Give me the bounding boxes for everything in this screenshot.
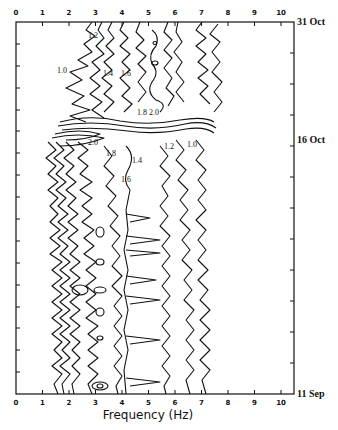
x-tick-label: 10 bbox=[276, 9, 286, 17]
x-tick-label: 5 bbox=[146, 399, 151, 407]
contour-chart: 0 1 2 3 4 5 6 7 8 9 10 0 1 2 3 4 5 6 7 8… bbox=[0, 0, 338, 430]
x-tick-label: 4 bbox=[120, 9, 125, 17]
x-tick-label: 9 bbox=[252, 399, 257, 407]
date-label-top: 31 Oct bbox=[297, 16, 326, 27]
contour-label: 2.0 bbox=[88, 138, 98, 147]
contour-lines bbox=[46, 22, 222, 394]
x-tick-label: 1 bbox=[40, 9, 45, 17]
x-tick-label: 7 bbox=[199, 399, 204, 407]
x-tick-label: 4 bbox=[120, 399, 125, 407]
x-tick-label: 0 bbox=[14, 399, 19, 407]
contour-label: 1.0 bbox=[187, 140, 197, 149]
contour-label: 1.4 bbox=[103, 69, 113, 78]
x-axis-top: 0 1 2 3 4 5 6 7 8 9 10 bbox=[14, 9, 286, 17]
x-tick-label: 6 bbox=[173, 399, 178, 407]
contour-label: 2.0 bbox=[149, 108, 159, 117]
x-axis-bottom: 0 1 2 3 4 5 6 7 8 9 10 bbox=[14, 399, 286, 407]
contour-label: 1.2 bbox=[164, 142, 174, 151]
x-tick-label: 10 bbox=[276, 399, 286, 407]
x-tick-label: 6 bbox=[173, 9, 178, 17]
contour-label: 1.8 bbox=[137, 108, 147, 117]
x-tick-label: 0 bbox=[14, 9, 19, 17]
contour-label: 1.6 bbox=[121, 175, 131, 184]
x-tick-label: 2 bbox=[67, 9, 72, 17]
contour-label: 1.8 bbox=[106, 149, 116, 158]
x-tick-label: 7 bbox=[199, 9, 204, 17]
contour-label: 1.6 bbox=[121, 69, 131, 78]
x-tick-label: 1 bbox=[40, 399, 45, 407]
contour-label: 1.2 bbox=[88, 31, 98, 40]
x-tick-label: 8 bbox=[226, 399, 231, 407]
contour-label: 1.0 bbox=[57, 66, 67, 75]
x-axis-label: Frequency (Hz) bbox=[103, 408, 194, 422]
date-label-mid: 16 Oct bbox=[297, 134, 326, 145]
contour-label: 1.4 bbox=[132, 156, 142, 165]
x-tick-label: 5 bbox=[146, 9, 151, 17]
x-tick-label: 9 bbox=[252, 9, 257, 17]
x-tick-label: 2 bbox=[67, 399, 72, 407]
x-tick-label: 3 bbox=[93, 9, 98, 17]
date-label-bottom: 11 Sep bbox=[297, 388, 325, 399]
x-tick-label: 3 bbox=[93, 399, 98, 407]
x-tick-label: 8 bbox=[226, 9, 231, 17]
